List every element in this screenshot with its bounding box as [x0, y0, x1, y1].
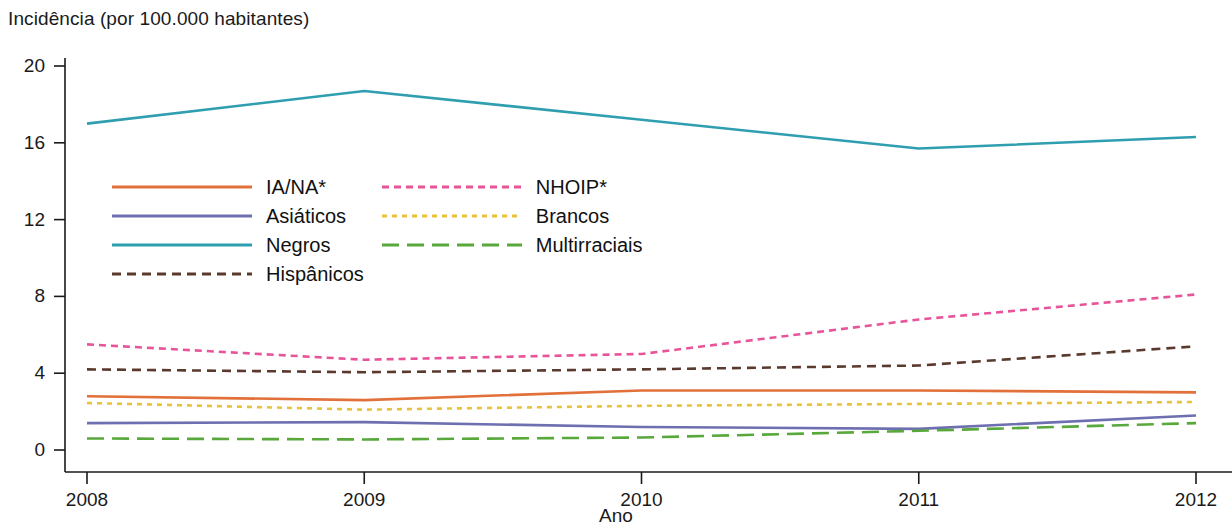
legend-swatch-asi-ticos [112, 209, 252, 223]
legend-label-multirraciais: Multirraciais [536, 235, 643, 255]
legend-swatch-negros [112, 238, 252, 252]
legend-swatch-nhoip [382, 180, 522, 194]
series-line-nhoip [87, 294, 1196, 359]
legend-label-brancos: Brancos [536, 206, 609, 226]
series-line-multirraciais [87, 423, 1196, 439]
legend-item-hisp-nicos[interactable]: Hispânicos [112, 259, 364, 288]
series-line-negros [87, 91, 1196, 149]
y-tick-label: 4 [34, 362, 45, 383]
legend-label-negros: Negros [266, 235, 330, 255]
legend-item-multirraciais[interactable]: Multirraciais [382, 230, 643, 259]
legend-column-right: NHOIP*BrancosMultirraciais [382, 172, 643, 259]
legend-swatch-multirraciais [382, 238, 522, 252]
legend-label-hisp-nicos: Hispânicos [266, 264, 364, 284]
legend-item-brancos[interactable]: Brancos [382, 201, 643, 230]
series-line-asi-ticos [87, 415, 1196, 428]
legend-item-negros[interactable]: Negros [112, 230, 364, 259]
series-line-hisp-nicos [87, 346, 1196, 372]
incidence-by-race-line-chart: Incidência (por 100.000 habitantes) 0481… [0, 0, 1232, 532]
legend-column-left: IA/NA*AsiáticosNegrosHispânicos [112, 172, 364, 288]
chart-legend: IA/NA*AsiáticosNegrosHispânicos NHOIP*Br… [112, 172, 643, 288]
legend-item-ia-na[interactable]: IA/NA* [112, 172, 364, 201]
legend-item-asi-ticos[interactable]: Asiáticos [112, 201, 364, 230]
legend-swatch-brancos [382, 209, 522, 223]
legend-label-nhoip: NHOIP* [536, 177, 607, 197]
legend-label-asi-ticos: Asiáticos [266, 206, 346, 226]
y-tick-label: 0 [34, 439, 45, 460]
series-line-brancos [87, 402, 1196, 410]
y-axis-ticks: 048121620 [24, 55, 65, 460]
y-tick-label: 8 [34, 285, 45, 306]
x-axis-title: Ano [0, 505, 1232, 527]
legend-swatch-hisp-nicos [112, 267, 252, 281]
y-tick-label: 12 [24, 209, 45, 230]
series-line-ia-na [87, 390, 1196, 400]
y-tick-label: 16 [24, 132, 45, 153]
legend-swatch-ia-na [112, 180, 252, 194]
legend-label-ia-na: IA/NA* [266, 177, 326, 197]
y-tick-label: 20 [24, 55, 45, 76]
legend-item-nhoip[interactable]: NHOIP* [382, 172, 643, 201]
